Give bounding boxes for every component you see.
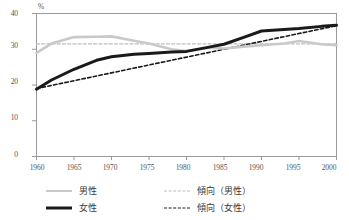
legend-item-male-trend: 傾向（男性） (164, 184, 304, 197)
legend-item-female: 女性 (46, 201, 164, 214)
chart-legend: 男性 傾向（男性） 女性 傾向（女性） (0, 182, 349, 216)
legend-swatch-female-dashed-icon (164, 203, 190, 213)
legend-label-female: 女性 (79, 201, 97, 214)
legend-label-male-trend: 傾向（男性） (197, 184, 251, 197)
legend-item-male: 男性 (46, 184, 164, 197)
axis-ticks (32, 14, 337, 161)
legend-item-female-trend: 傾向（女性） (164, 201, 304, 214)
legend-label-female-trend: 傾向（女性） (197, 201, 251, 214)
legend-swatch-female-solid-icon (46, 203, 72, 213)
legend-swatch-male-dashed-icon (164, 186, 190, 196)
series-female-trend-line (37, 26, 337, 89)
series-lines (37, 25, 337, 89)
chart-figure: 40 30 20 10 0 % 1960 1965 1970 1975 1980… (0, 0, 349, 220)
legend-label-male: 男性 (79, 184, 97, 197)
legend-swatch-male-solid-icon (46, 186, 72, 196)
